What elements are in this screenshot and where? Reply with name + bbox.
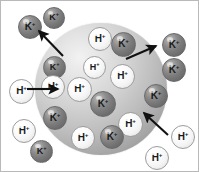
ion-label: K+ — [25, 22, 35, 32]
ion-charge: + — [105, 96, 108, 103]
ion-label: H+ — [95, 34, 105, 44]
ion-charge: + — [125, 37, 128, 44]
ion-k-inside: K+ — [43, 106, 67, 130]
ion-h-inside: H+ — [71, 126, 95, 150]
ion-charge: + — [176, 62, 179, 69]
ion-charge: + — [57, 110, 60, 117]
ion-h-inside: H+ — [88, 27, 112, 51]
ion-transport-diagram: K+K+K+H+K+K+K+H+H+H+H+H+K+K+K+H+H+H+K+K+… — [0, 0, 199, 172]
ion-label: H+ — [117, 71, 127, 81]
ion-charge: + — [124, 69, 127, 76]
ion-h-outside: H+ — [12, 119, 36, 143]
ion-label: H+ — [125, 119, 135, 129]
ion-label: K+ — [49, 13, 58, 22]
ion-label: H+ — [74, 84, 84, 94]
ion-charge: + — [114, 129, 117, 136]
ion-label: K+ — [50, 113, 60, 123]
ion-charge: + — [81, 82, 84, 89]
ion-h-outside: H+ — [9, 79, 34, 104]
ion-charge: + — [23, 84, 26, 91]
ion-k-outside: K+ — [162, 33, 186, 57]
ion-charge: + — [43, 145, 46, 151]
ion-k-outside: K+ — [162, 58, 186, 82]
ion-label: K+ — [50, 63, 59, 72]
ion-k-inside: K+ — [100, 125, 124, 149]
ion-charge: + — [26, 123, 29, 130]
ion-h-inside: H+ — [83, 56, 106, 79]
ion-charge: + — [55, 79, 58, 86]
ion-label: K+ — [169, 65, 179, 75]
ion-label: H+ — [78, 133, 88, 143]
ion-charge: + — [158, 88, 161, 95]
ion-label: H+ — [48, 82, 58, 92]
ion-label: K+ — [118, 39, 128, 49]
ion-label: K+ — [107, 132, 117, 142]
ion-k-inside: K+ — [90, 91, 116, 117]
ion-label: H+ — [19, 126, 29, 136]
ion-h-outside: H+ — [171, 125, 195, 149]
ion-label: H+ — [152, 153, 162, 163]
ion-charge: + — [32, 19, 35, 26]
ion-label: H+ — [178, 132, 188, 142]
ion-charge: + — [102, 31, 105, 38]
ion-charge: + — [159, 150, 162, 157]
ion-label: H+ — [90, 63, 99, 72]
ion-h-inside: H+ — [41, 75, 65, 99]
ion-charge: + — [176, 37, 179, 44]
ion-h-inside: H+ — [67, 77, 92, 102]
ion-label: K+ — [151, 91, 161, 101]
ion-k-outside: K+ — [18, 15, 42, 39]
ion-charge: + — [132, 117, 135, 124]
ion-h-outside: H+ — [145, 146, 169, 170]
ion-charge: + — [56, 61, 59, 67]
ion-charge: + — [185, 129, 188, 136]
ion-k-inside: K+ — [111, 32, 136, 57]
ion-k-inside: K+ — [144, 84, 168, 108]
ion-k-outside: K+ — [30, 140, 53, 163]
ion-label: K+ — [169, 40, 179, 50]
ion-label: H+ — [16, 86, 26, 96]
ion-h-inside: H+ — [110, 64, 135, 89]
ion-charge: + — [96, 61, 99, 67]
ion-charge: + — [85, 130, 88, 137]
ion-charge: + — [56, 11, 59, 17]
ion-label: K+ — [98, 99, 108, 109]
ion-k-outside: K+ — [43, 7, 65, 29]
ion-label: K+ — [37, 147, 46, 156]
